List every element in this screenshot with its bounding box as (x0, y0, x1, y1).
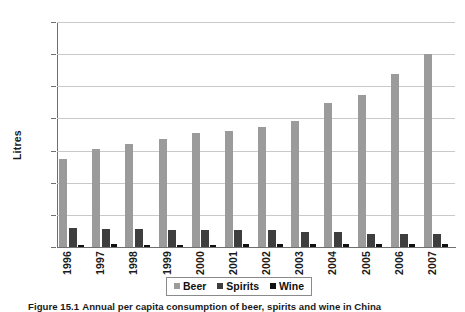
bar-wine (277, 244, 283, 247)
plot-area: 05101520253035 (57, 22, 455, 247)
x-axis-label: 1996 (61, 251, 75, 285)
bar-group (123, 22, 156, 247)
bar-group (157, 22, 190, 247)
x-axis-label: 2006 (393, 251, 407, 285)
bar-spirits (168, 230, 176, 247)
caption-text: Annual per capita consumption of beer, s… (82, 301, 381, 312)
y-axis-tick (51, 247, 56, 248)
caption-number: Figure 15.1 (28, 301, 79, 312)
bar-group (356, 22, 389, 247)
bar-beer (192, 133, 200, 247)
figure-caption: Figure 15.1Annual per capita consumption… (28, 300, 448, 312)
bar-spirits (367, 234, 375, 248)
x-axis-line (57, 247, 456, 248)
bar-spirits (201, 230, 209, 247)
bar-beer (358, 95, 366, 247)
bar-wine (177, 245, 183, 247)
bar-beer (324, 103, 332, 247)
bar-spirits (400, 234, 408, 248)
bar-group (57, 22, 90, 247)
bar-spirits (234, 230, 242, 247)
y-axis-tick (51, 118, 56, 119)
y-axis-tick (51, 183, 56, 184)
bar-wine (210, 245, 216, 247)
bar-wine (78, 245, 84, 247)
x-axis-label: 2002 (260, 251, 274, 285)
bar-spirits (102, 229, 110, 247)
x-axis-label: 1997 (94, 251, 108, 285)
bar-beer (59, 159, 67, 247)
bar-beer (258, 127, 266, 247)
bar-wine (310, 244, 316, 247)
bar-group (256, 22, 289, 247)
bar-wine (409, 244, 415, 247)
bar-wine (343, 244, 349, 247)
bar-group (289, 22, 322, 247)
bar-spirits (301, 232, 309, 247)
y-axis-tick (51, 151, 56, 152)
spirits-swatch (217, 283, 223, 289)
bar-group (190, 22, 223, 247)
bar-group (90, 22, 123, 247)
bar-group (223, 22, 256, 247)
x-axis-label: 2000 (194, 251, 208, 285)
bar-spirits (135, 229, 143, 247)
bar-wine (144, 245, 150, 247)
y-axis-tick (51, 22, 56, 23)
x-axis-label: 2007 (426, 251, 440, 285)
bar-beer (92, 149, 100, 247)
figure-container: Litres 05101520253035 BeerSpiritsWine Fi… (0, 0, 465, 312)
bar-spirits (334, 232, 342, 247)
y-axis-title: Litres (8, 110, 26, 180)
x-axis-label: 1998 (127, 251, 141, 285)
x-axis-label: 1999 (161, 251, 175, 285)
y-axis-tick (51, 54, 56, 55)
bar-wine (243, 244, 249, 247)
bar-beer (291, 121, 299, 247)
x-axis-label: 2005 (360, 251, 374, 285)
x-axis-label: 2001 (227, 251, 241, 285)
bar-group (389, 22, 422, 247)
bar-beer (225, 131, 233, 247)
bar-group (322, 22, 355, 247)
bar-beer (125, 144, 133, 247)
bar-wine (376, 244, 382, 247)
bar-beer (424, 54, 432, 247)
bar-spirits (433, 234, 441, 247)
bar-wine (111, 244, 117, 247)
bar-beer (391, 74, 399, 247)
y-axis-tick (51, 215, 56, 216)
y-axis-tick (51, 86, 56, 87)
bar-spirits (268, 230, 276, 247)
x-axis-label: 2004 (326, 251, 340, 285)
x-axis-label: 2003 (293, 251, 307, 285)
bar-group (422, 22, 455, 247)
bar-spirits (69, 228, 77, 247)
bar-beer (159, 139, 167, 247)
bar-wine (442, 244, 448, 247)
